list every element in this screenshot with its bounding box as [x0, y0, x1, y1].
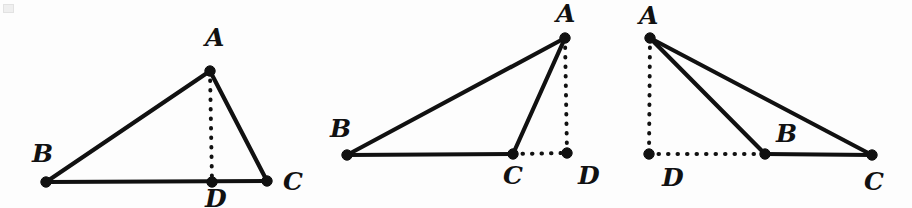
label-B: B	[31, 139, 53, 168]
vertex-B	[342, 150, 352, 160]
vertex-B	[760, 149, 770, 159]
vertex-C	[508, 149, 518, 159]
segment-AB	[650, 38, 765, 154]
segment-BC	[46, 181, 267, 182]
panel-acute-case: A B C D	[31, 23, 303, 208]
extension-CD	[513, 153, 567, 154]
altitude-AD	[649, 38, 650, 154]
label-C: C	[864, 167, 884, 196]
label-A: A	[637, 1, 658, 30]
label-B: B	[775, 119, 797, 148]
label-D: D	[577, 161, 600, 190]
segment-BC	[347, 154, 513, 155]
segment-AC	[210, 71, 267, 181]
label-D: D	[661, 163, 684, 192]
vertex-A	[205, 66, 215, 76]
label-C: C	[503, 161, 523, 190]
segment-BC	[765, 154, 872, 155]
label-D: D	[204, 184, 227, 208]
segment-AB	[347, 38, 565, 155]
vertex-A	[560, 33, 570, 43]
panel-obtuse-at-c-case: A B C D	[329, 0, 600, 190]
label-C: C	[283, 167, 303, 196]
panel-obtuse-at-b-case: A B C D	[637, 1, 884, 196]
triangles-canvas: A B C D A B C D	[0, 0, 912, 208]
segment-AC	[650, 38, 872, 155]
altitude-AD	[210, 71, 212, 182]
label-A: A	[203, 23, 224, 52]
vertex-B	[41, 177, 51, 187]
label-B: B	[329, 114, 351, 143]
vertex-A	[645, 33, 655, 43]
altitude-AD	[565, 38, 567, 153]
geometry-figure: A B C D A B C D	[0, 0, 912, 208]
vertex-D	[562, 148, 572, 158]
segment-AB	[46, 71, 210, 182]
segment-AC	[513, 38, 565, 154]
vertex-C	[262, 176, 272, 186]
vertex-D	[644, 149, 654, 159]
vertex-C	[867, 150, 877, 160]
label-A: A	[554, 0, 575, 28]
